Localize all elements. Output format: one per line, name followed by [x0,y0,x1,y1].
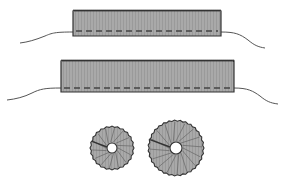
thread-right [221,32,265,48]
thread-right [234,88,278,104]
center-hole [170,142,182,154]
ruffle-rosette-diagram [0,0,286,186]
center-hole [107,143,117,153]
rosettes [90,120,204,176]
strip-body [73,10,221,36]
gathered-strips [7,10,278,104]
strip-body [61,60,234,92]
short-gathered-strip [20,10,265,48]
long-gathered-strip [7,60,278,104]
small-rosette [90,126,134,170]
large-rosette [148,120,204,176]
thread-left [20,32,73,43]
thread-left [7,88,61,100]
